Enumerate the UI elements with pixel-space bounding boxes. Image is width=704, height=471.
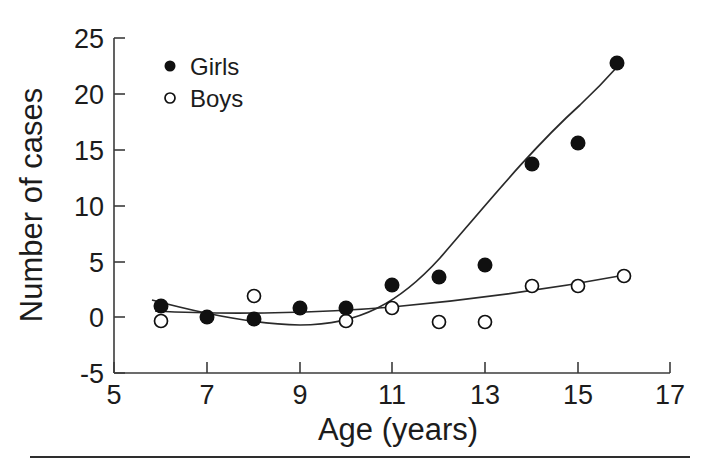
- data-point: [433, 316, 446, 329]
- legend-label-girls: Girls: [190, 53, 239, 80]
- y-tick-label-minus5: -5: [80, 359, 104, 389]
- x-tick-label-13: 13: [470, 380, 500, 410]
- data-point: [248, 290, 261, 303]
- data-point: [478, 258, 493, 273]
- y-tick-label-15: 15: [74, 136, 104, 166]
- data-point: [155, 315, 168, 328]
- legend-label-boys: Boys: [190, 85, 243, 112]
- data-point: [386, 302, 399, 315]
- scatter-chart: 25 20 15 10 5 0 -5 5 7 9 11 13 15 17 Age…: [0, 0, 704, 471]
- data-point: [618, 270, 631, 283]
- x-tick-label-17: 17: [655, 380, 685, 410]
- y-axis-ticks: [114, 38, 125, 373]
- x-axis-title: Age (years): [318, 412, 478, 447]
- data-point: [572, 280, 585, 293]
- data-point: [525, 157, 540, 172]
- x-tick-label-11: 11: [378, 380, 406, 410]
- data-point: [200, 310, 215, 325]
- data-point: [247, 312, 262, 327]
- data-point: [610, 56, 625, 71]
- y-axis-title: Number of cases: [14, 88, 49, 322]
- data-point: [571, 136, 586, 151]
- data-point: [526, 280, 539, 293]
- x-tick-label-15: 15: [563, 380, 593, 410]
- x-tick-label-5: 5: [106, 380, 121, 410]
- data-point: [339, 301, 354, 316]
- legend-marker-filled-circle-icon: [165, 61, 176, 72]
- legend-item-girls[interactable]: Girls: [165, 53, 240, 80]
- data-point: [154, 299, 169, 314]
- legend-item-boys[interactable]: Boys: [165, 85, 243, 112]
- y-tick-label-0: 0: [89, 303, 104, 333]
- data-point: [479, 316, 492, 329]
- data-point: [340, 315, 353, 328]
- y-tick-label-5: 5: [89, 248, 104, 278]
- y-tick-label-20: 20: [74, 80, 104, 110]
- legend-marker-open-circle-icon: [165, 93, 175, 103]
- data-point: [432, 270, 447, 285]
- x-tick-label-7: 7: [199, 380, 214, 410]
- y-tick-label-10: 10: [74, 192, 104, 222]
- x-tick-label-9: 9: [292, 380, 307, 410]
- data-point: [293, 301, 308, 316]
- data-point: [385, 278, 400, 293]
- x-axis-ticks: [114, 362, 670, 373]
- figure-container: 25 20 15 10 5 0 -5 5 7 9 11 13 15 17 Age…: [0, 0, 704, 471]
- chart-legend: Girls Boys: [165, 53, 244, 112]
- y-tick-label-25: 25: [74, 24, 104, 54]
